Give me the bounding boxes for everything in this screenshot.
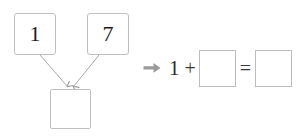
number-bond-part-two-box[interactable]: 7 — [87, 13, 129, 55]
arrow-right-icon — [142, 58, 162, 78]
worksheet-canvas: 1 7 1 + = — [0, 0, 305, 136]
number-bond-part-one-value: 1 — [30, 23, 41, 45]
plus-sign: + — [185, 58, 196, 78]
number-bond-whole-box[interactable] — [50, 89, 91, 129]
equation-operand-one: 1 — [169, 58, 180, 79]
equals-sign: = — [240, 58, 251, 78]
arrow-part-one-to-whole — [40, 55, 68, 87]
arrow-part-two-to-whole — [74, 55, 100, 87]
equation-result-box[interactable] — [255, 50, 292, 87]
number-bond-part-two-value: 7 — [103, 23, 114, 45]
number-bond-part-one-box[interactable]: 1 — [14, 13, 56, 55]
equation-operand-two-box[interactable] — [199, 50, 236, 87]
equation-row: 1 + = — [142, 46, 302, 90]
